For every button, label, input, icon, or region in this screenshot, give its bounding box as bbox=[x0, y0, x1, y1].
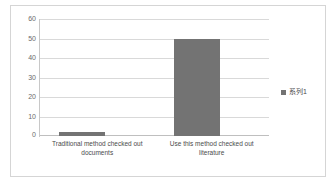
y-tick-50: 50 bbox=[12, 35, 36, 43]
gridline-10 bbox=[39, 117, 269, 118]
y-tick-60: 60 bbox=[12, 15, 36, 23]
y-axis-line bbox=[39, 19, 40, 137]
x-label-traditional-method: Traditional method checked out documents bbox=[40, 139, 155, 157]
legend-series-label: 系列1 bbox=[289, 88, 307, 96]
x-label-this-method: Use this method checked out literature bbox=[155, 139, 270, 157]
gridline-40 bbox=[39, 58, 269, 59]
chart-container: 60 50 40 30 20 10 0 Traditional method c… bbox=[10, 5, 326, 177]
y-tick-30: 30 bbox=[12, 74, 36, 82]
y-tick-10: 10 bbox=[12, 113, 36, 121]
y-axis-tick-labels: 60 50 40 30 20 10 0 bbox=[11, 19, 36, 137]
x-axis-category-labels: Traditional method checked out documents… bbox=[40, 139, 269, 157]
gridline-60 bbox=[39, 19, 269, 20]
legend-color-swatch-icon bbox=[281, 90, 286, 95]
gridline-20 bbox=[39, 97, 269, 98]
bar-traditional-method[interactable] bbox=[59, 132, 105, 136]
chart-legend[interactable]: 系列1 bbox=[281, 88, 307, 96]
y-tick-40: 40 bbox=[12, 54, 36, 62]
y-tick-0: 0 bbox=[12, 131, 36, 139]
gridline-50 bbox=[39, 39, 269, 40]
y-tick-20: 20 bbox=[12, 93, 36, 101]
gridline-30 bbox=[39, 78, 269, 79]
plot-area bbox=[39, 19, 269, 136]
bar-this-method[interactable] bbox=[174, 39, 220, 137]
